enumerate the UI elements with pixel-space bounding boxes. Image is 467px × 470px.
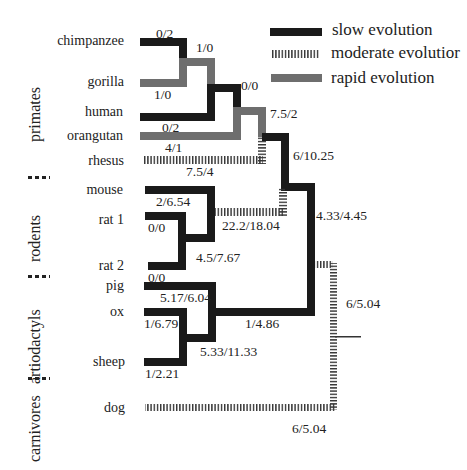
branch-label-rodents: 22.2/18.04 — [222, 218, 280, 234]
branch-label-chimp-gorilla: 1/0 — [196, 40, 213, 56]
branch-label-dog: 6/5.04 — [292, 421, 326, 437]
taxon-sheep: sheep — [5, 354, 125, 370]
branch-label-primates: 6/10.25 — [293, 148, 334, 164]
branch-label-murids: 4.5/7.67 — [196, 250, 240, 266]
group-separator — [28, 176, 50, 179]
branch-label-chimpanzee: 0/2 — [156, 26, 173, 42]
branch-label-hominines: 0/0 — [241, 78, 258, 94]
group-primates: primates — [26, 87, 44, 142]
group-artiodactyls: artiodactyls — [26, 309, 44, 384]
branch-label-rhesus: 7.5/4 — [186, 164, 213, 180]
branch-label-great-apes: 7.5/2 — [270, 106, 297, 122]
taxon-dog: dog — [5, 400, 125, 416]
taxon-human: human — [3, 104, 123, 120]
group-separator — [28, 377, 50, 380]
branch-label-root: 6/5.04 — [346, 296, 380, 312]
legend-rapid-swatch — [271, 74, 322, 82]
branch-label-gorilla: 1/0 — [154, 87, 171, 103]
taxon-mouse: mouse — [3, 182, 123, 198]
branch-label-artiodactyls: 1/4.86 — [245, 316, 279, 332]
primates-clade — [140, 38, 289, 191]
taxon-gorilla: gorilla — [4, 74, 124, 90]
branch-label-euarchontoglires: 4.33/4.45 — [316, 208, 367, 224]
taxon-ox: ox — [4, 304, 124, 320]
legend-moderate-label: moderate evolutior — [331, 43, 460, 63]
branch-label-sheep: 1/2.21 — [145, 366, 179, 382]
group-rodents: rodents — [26, 215, 44, 262]
branch-label-rat1: 0/0 — [148, 220, 165, 236]
taxon-pig: pig — [4, 278, 124, 294]
group-carnivores: carnivores — [26, 395, 44, 462]
taxon-rhesus: rhesus — [4, 153, 124, 169]
group-separator — [28, 275, 50, 278]
taxon-chimpanzee: chimpanzee — [4, 33, 124, 49]
branch-label-ruminants: 5.33/11.33 — [200, 344, 257, 360]
taxon-rat-2: rat 2 — [4, 258, 124, 274]
branch-label-mouse: 2/6.54 — [156, 194, 190, 210]
branch-label-orangutan: 4/1 — [165, 140, 182, 156]
taxon-rat-1: rat 1 — [4, 212, 124, 228]
legend-slow-label: slow evolution — [332, 20, 433, 40]
branch-label-human: 0/2 — [162, 120, 179, 136]
legend-rapid-label: rapid evolution — [331, 68, 434, 88]
branch-label-ox: 1/6.79 — [144, 316, 178, 332]
legend-slow-swatch — [270, 28, 322, 36]
branch-label-pig: 5.17/6.04 — [160, 290, 211, 306]
branch-label-rat2: 0/0 — [148, 270, 165, 286]
legend-moderate-swatch — [271, 50, 320, 58]
taxon-orangutan: orangutan — [3, 128, 123, 144]
